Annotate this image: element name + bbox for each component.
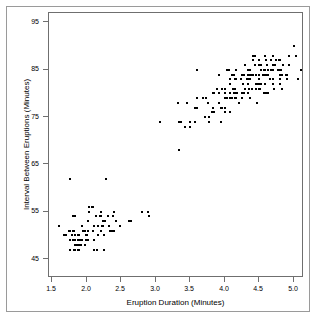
data-point <box>80 244 82 246</box>
data-point <box>295 55 297 57</box>
data-point <box>247 83 249 85</box>
data-point <box>235 78 237 80</box>
data-point <box>186 102 188 104</box>
data-point <box>273 88 275 90</box>
data-point <box>97 225 99 227</box>
data-point <box>286 74 288 76</box>
data-point <box>100 211 102 213</box>
scatter-plot-figure: 4555657585951.52.02.53.03.54.04.55.0 Eru… <box>0 0 317 320</box>
plot-area <box>48 12 303 277</box>
data-point <box>241 74 243 76</box>
data-point <box>213 92 215 94</box>
data-point <box>207 102 209 104</box>
data-point <box>256 102 258 104</box>
x-axis-tick-label: 5.0 <box>278 285 308 292</box>
data-point <box>254 64 256 66</box>
data-point <box>65 234 67 236</box>
data-point <box>189 126 191 128</box>
data-point <box>224 92 226 94</box>
data-point <box>88 211 90 213</box>
data-point <box>147 211 149 213</box>
data-point <box>226 97 228 99</box>
data-point <box>279 78 281 80</box>
data-point <box>194 107 196 109</box>
data-point <box>78 249 80 251</box>
data-points-layer <box>49 13 302 276</box>
data-point <box>297 78 299 80</box>
data-point <box>293 45 295 47</box>
data-point <box>272 55 274 57</box>
data-point <box>255 74 257 76</box>
data-point <box>241 97 243 99</box>
data-point <box>177 102 179 104</box>
data-point <box>281 88 283 90</box>
data-point <box>196 69 198 71</box>
data-point <box>244 64 246 66</box>
x-axis-tick <box>51 277 52 282</box>
x-axis-tick <box>189 277 190 282</box>
data-point <box>218 74 220 76</box>
data-point <box>229 92 231 94</box>
data-point <box>221 107 223 109</box>
x-axis-title: Eruption Duration (Minutes) <box>48 298 303 307</box>
data-point <box>274 64 276 66</box>
data-point <box>270 59 272 61</box>
data-point <box>115 220 117 222</box>
x-axis-tick-label: 2.5 <box>105 285 135 292</box>
data-point <box>279 83 281 85</box>
data-point <box>281 74 283 76</box>
data-point <box>104 220 106 222</box>
data-point <box>189 121 191 123</box>
data-point <box>88 206 90 208</box>
data-point <box>265 92 267 94</box>
data-point <box>258 78 260 80</box>
data-point <box>229 83 231 85</box>
data-point <box>85 234 87 236</box>
data-point <box>277 69 279 71</box>
data-point <box>286 78 288 80</box>
data-point <box>113 211 115 213</box>
data-point <box>178 149 180 151</box>
data-point <box>69 249 71 251</box>
data-point <box>258 74 260 76</box>
data-point <box>218 102 220 104</box>
data-point <box>300 69 302 71</box>
data-point <box>196 97 198 99</box>
data-point <box>272 64 274 66</box>
data-point <box>81 225 83 227</box>
data-point <box>108 225 110 227</box>
x-axis-tick-label: 3.5 <box>174 285 204 292</box>
data-point <box>252 55 254 57</box>
data-point <box>269 78 271 80</box>
x-axis-tick-label: 3.0 <box>140 285 170 292</box>
data-point <box>228 69 230 71</box>
data-point <box>107 215 109 217</box>
data-point <box>78 234 80 236</box>
data-point <box>69 239 71 241</box>
data-point <box>267 69 269 71</box>
data-point <box>280 69 282 71</box>
data-point <box>102 220 104 222</box>
data-point <box>93 225 95 227</box>
data-point <box>93 239 95 241</box>
data-point <box>270 69 272 71</box>
data-point <box>249 74 251 76</box>
data-point <box>141 211 143 213</box>
data-point <box>184 126 186 128</box>
data-point <box>234 97 236 99</box>
data-point <box>240 78 242 80</box>
data-point <box>95 215 97 217</box>
data-point <box>235 69 237 71</box>
data-point <box>105 178 107 180</box>
data-point <box>194 121 196 123</box>
data-point <box>73 230 75 232</box>
data-point <box>243 74 245 76</box>
data-point <box>258 59 260 61</box>
data-point <box>255 88 257 90</box>
data-point <box>180 121 182 123</box>
data-point <box>87 230 89 232</box>
data-point <box>243 92 245 94</box>
y-axis-title: Interval Between Eruptions (Minutes) <box>22 12 31 277</box>
data-point <box>252 59 254 61</box>
data-point <box>112 215 114 217</box>
